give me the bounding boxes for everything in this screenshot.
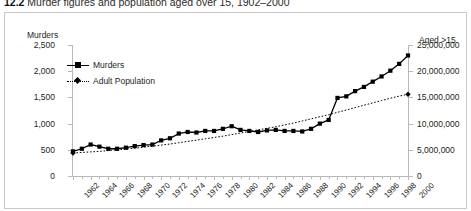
data-point — [97, 145, 101, 149]
data-point — [168, 136, 172, 140]
x-tick — [179, 177, 180, 180]
data-point — [238, 128, 242, 132]
data-point — [388, 69, 392, 73]
left-tick-label: 500 — [41, 145, 55, 155]
right-tick — [409, 45, 413, 46]
figure-number: 12.2 — [4, 0, 24, 8]
x-tick — [144, 177, 145, 180]
x-tick — [337, 177, 338, 180]
x-minor-tick — [399, 177, 400, 179]
data-point — [230, 124, 234, 128]
right-tick-label: 10,000,000 — [417, 119, 460, 129]
x-tick — [408, 177, 409, 180]
data-point — [194, 130, 198, 134]
x-minor-tick — [82, 177, 83, 179]
x-tick — [320, 177, 321, 180]
series-adult-population — [70, 92, 410, 156]
x-minor-tick — [205, 177, 206, 179]
left-tick-label: 1,500 — [34, 92, 55, 102]
data-point — [89, 142, 93, 146]
x-minor-tick — [346, 177, 347, 179]
plot-area — [73, 45, 408, 176]
right-tick-label: 25,000,000 — [417, 40, 460, 50]
left-tick — [68, 176, 72, 177]
chart-frame: Murders Aged >15 05001,0001,5002,0002,50… — [4, 12, 467, 209]
figure-caption: 12.2 Murder figures and population aged … — [4, 0, 289, 8]
x-tick-label: 1984 — [276, 181, 295, 200]
data-point — [371, 80, 375, 84]
right-tick-label: 5,000,000 — [417, 145, 455, 155]
left-tick-label: 0 — [50, 171, 55, 181]
data-point — [247, 129, 251, 133]
x-minor-tick — [258, 177, 259, 179]
x-tick-label: 1970 — [153, 181, 172, 200]
x-minor-tick — [152, 177, 153, 179]
x-tick — [390, 177, 391, 180]
x-tick — [232, 177, 233, 180]
x-minor-tick — [135, 177, 136, 179]
data-point — [405, 92, 410, 97]
data-point — [327, 118, 331, 122]
x-tick-label: 1978 — [223, 181, 242, 200]
data-point — [344, 94, 348, 98]
right-tick — [409, 71, 413, 72]
data-point — [362, 85, 366, 89]
data-point — [186, 130, 190, 134]
left-axis-title: Murders — [27, 30, 58, 40]
data-point — [291, 129, 295, 133]
data-point — [300, 129, 304, 133]
x-tick — [108, 177, 109, 180]
x-tick-label: 1986 — [294, 181, 313, 200]
right-tick — [409, 97, 413, 98]
x-minor-tick — [382, 177, 383, 179]
x-tick-label: 1980 — [241, 181, 260, 200]
x-minor-tick — [241, 177, 242, 179]
x-minor-tick — [311, 177, 312, 179]
series-line — [73, 94, 408, 153]
x-minor-tick — [99, 177, 100, 179]
right-tick-label: 0 — [417, 171, 422, 181]
x-tick — [267, 177, 268, 180]
x-tick-label: 1982 — [259, 181, 278, 200]
data-point — [309, 127, 313, 131]
data-point — [212, 129, 216, 133]
data-point — [274, 128, 278, 132]
figure-caption-text: Murder figures and population aged over … — [27, 0, 289, 8]
series-murders — [71, 53, 410, 153]
x-tick-label: 1962 — [82, 181, 101, 200]
data-point — [406, 53, 410, 57]
x-minor-tick — [223, 177, 224, 179]
data-point — [353, 89, 357, 93]
x-tick-label: 1990 — [329, 181, 348, 200]
x-tick-label: 1974 — [188, 181, 207, 200]
data-point — [397, 62, 401, 66]
x-minor-tick — [117, 177, 118, 179]
x-minor-tick — [188, 177, 189, 179]
x-tick — [355, 177, 356, 180]
chart-figure: 12.2 Murder figures and population aged … — [0, 0, 471, 211]
x-tick-label: 1996 — [382, 181, 401, 200]
left-tick — [68, 124, 72, 125]
x-tick-label: 1992 — [347, 181, 366, 200]
x-tick — [373, 177, 374, 180]
x-tick — [214, 177, 215, 180]
x-minor-tick — [329, 177, 330, 179]
x-minor-tick — [293, 177, 294, 179]
x-tick — [126, 177, 127, 180]
x-tick-label: 1994 — [364, 181, 383, 200]
x-tick-label: 1976 — [206, 181, 225, 200]
data-point — [133, 144, 137, 148]
data-point — [115, 147, 119, 151]
data-point — [318, 122, 322, 126]
left-tick-label: 1,000 — [34, 119, 55, 129]
x-minor-tick — [170, 177, 171, 179]
x-tick-label: 1968 — [135, 181, 154, 200]
right-tick-label: 20,000,000 — [417, 66, 460, 76]
x-minor-tick — [276, 177, 277, 179]
series-line — [73, 55, 408, 151]
data-point — [159, 138, 163, 142]
right-axis-line — [408, 45, 409, 177]
x-tick — [285, 177, 286, 180]
left-tick-label: 2,000 — [34, 66, 55, 76]
x-tick-label: 1972 — [170, 181, 189, 200]
